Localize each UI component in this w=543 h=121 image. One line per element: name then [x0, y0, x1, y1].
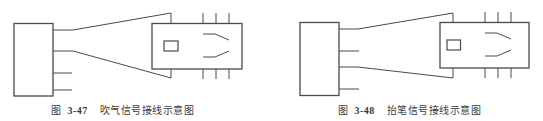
relay-body — [152, 24, 242, 70]
lead-1-to-relay — [53, 13, 171, 30]
caption-number: 3-48 — [355, 105, 375, 116]
terminal-block — [300, 23, 339, 96]
fig-3-47-diagram — [14, 13, 242, 96]
switch-contact-upper — [485, 33, 511, 39]
lead-2-to-relay — [53, 51, 171, 78]
relay-body — [440, 23, 529, 69]
terminal-block — [14, 24, 53, 97]
lead-3-to-relay — [339, 67, 453, 78]
caption-title: 抬笔信号接线示意图 — [387, 105, 482, 116]
caption-number: 3-47 — [68, 105, 88, 116]
switch-contact-lower — [485, 50, 511, 56]
figure-caption-3-47: 图3-47吹气信号接线示意图 — [51, 102, 194, 117]
fig-3-48-diagram — [300, 12, 529, 96]
caption-title: 吹气信号接线示意图 — [100, 105, 195, 116]
lead-1-to-relay — [339, 13, 453, 29]
switch-contact-lower — [203, 51, 229, 57]
switch-contact-upper — [203, 34, 229, 40]
caption-prefix: 图 — [51, 105, 62, 116]
caption-prefix: 图 — [338, 105, 349, 116]
coil-square — [164, 41, 178, 51]
figure-caption-3-48: 图3-48抬笔信号接线示意图 — [338, 102, 481, 117]
coil-square — [447, 40, 461, 50]
